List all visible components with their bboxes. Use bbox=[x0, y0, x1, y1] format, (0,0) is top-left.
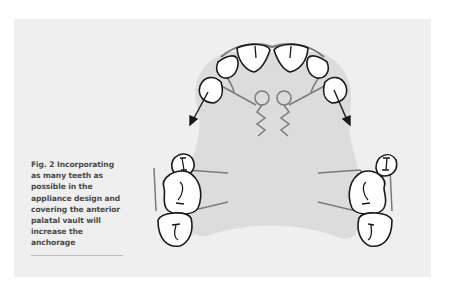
caption-line: appliance design and bbox=[31, 193, 127, 204]
caption-line: Fig. 2 Incorporating bbox=[31, 159, 127, 170]
caption-divider bbox=[31, 255, 123, 256]
caption-line: covering the anterior bbox=[31, 204, 127, 215]
tooth-canine-right bbox=[324, 77, 347, 103]
tooth-molar1-right bbox=[349, 171, 386, 214]
tooth-molar2-right bbox=[358, 213, 392, 246]
caption-line: possible in the bbox=[31, 181, 127, 192]
caption-line: anchorage bbox=[31, 237, 127, 248]
figure-caption: Fig. 2 Incorporating as many teeth as po… bbox=[31, 159, 127, 249]
arrow-left-icon bbox=[190, 116, 197, 125]
caption-line: increase the bbox=[31, 226, 127, 237]
caption-line: as many teeth as bbox=[31, 170, 127, 181]
caption-line: palatal vault will bbox=[31, 215, 127, 226]
tooth-canine-left bbox=[199, 77, 222, 103]
